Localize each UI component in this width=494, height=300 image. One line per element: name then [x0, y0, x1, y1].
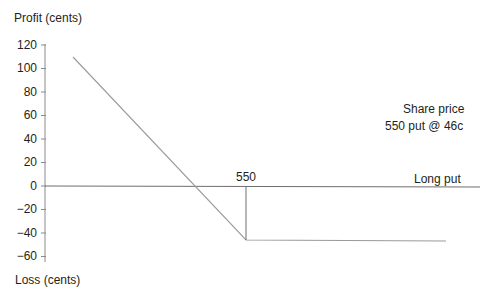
y-tick-label: −60 — [7, 249, 37, 263]
y-tick-label: 60 — [7, 108, 37, 122]
y-tick-label: 40 — [7, 132, 37, 146]
y-tick-label: 20 — [7, 155, 37, 169]
y-tick-label: 0 — [7, 179, 37, 193]
zero-axis — [45, 186, 480, 187]
chart-plot — [0, 0, 494, 300]
y-tick-label: −20 — [7, 202, 37, 216]
y-tick-label: 100 — [7, 61, 37, 75]
long-put-chart: Profit (cents) Loss (cents) 120 100 80 6… — [0, 0, 494, 300]
series-label: Long put — [414, 172, 461, 186]
legend-line-1: Share price — [403, 102, 464, 116]
y-axis-title-profit: Profit (cents) — [14, 11, 82, 25]
y-tick-label: 80 — [7, 85, 37, 99]
y-axis-title-loss: Loss (cents) — [15, 273, 80, 287]
payoff-line — [73, 57, 446, 241]
y-tick-label: −40 — [7, 226, 37, 240]
y-tick-label: 120 — [7, 38, 37, 52]
legend-line-2: 550 put @ 46c — [385, 119, 463, 133]
strike-label: 550 — [236, 170, 256, 184]
